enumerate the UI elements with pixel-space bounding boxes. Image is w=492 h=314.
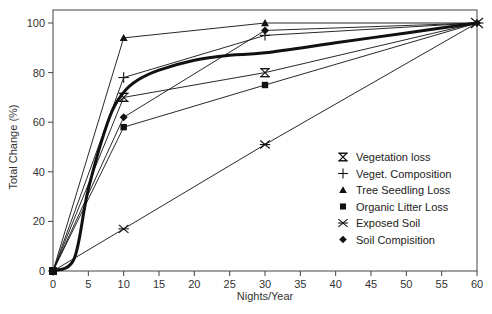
x-tick-label: 5	[85, 278, 91, 290]
plus-marker-icon	[338, 169, 348, 179]
legend-item: Tree Seedling Loss	[339, 184, 451, 196]
legend-label: Soil Compisition	[356, 234, 435, 246]
plot-frame	[53, 10, 477, 271]
square-marker-icon	[262, 82, 268, 88]
y-axis-label: Total Change (%)	[7, 105, 19, 190]
y-tick-label: 40	[33, 166, 45, 178]
y-tick-label: 60	[33, 116, 45, 128]
legend-label: Exposed Soil	[356, 217, 420, 229]
square-marker-icon	[340, 203, 346, 209]
y-tick-label: 20	[33, 215, 45, 227]
x-tick-label: 25	[224, 278, 236, 290]
x-axis-ticks: 051015202530354045505560	[50, 271, 483, 290]
x-tick-label: 60	[471, 278, 483, 290]
x-tick-label: 35	[294, 278, 306, 290]
x-marker-icon	[260, 141, 270, 149]
x-axis-label: Nights/Year	[237, 290, 294, 302]
legend: Vegetation lossVeget. CompositionTree Se…	[338, 151, 451, 246]
legend-item: Vegetation loss	[338, 151, 431, 163]
x-tick-label: 0	[50, 278, 56, 290]
x-tick-label: 20	[188, 278, 200, 290]
diamond-marker-icon	[339, 236, 347, 244]
x-tick-label: 45	[365, 278, 377, 290]
legend-item: Exposed Soil	[338, 217, 420, 229]
legend-item: Organic Litter Loss	[340, 201, 449, 213]
x-tick-label: 55	[436, 278, 448, 290]
plot-area-border	[53, 10, 477, 271]
diamond-marker-icon	[261, 26, 269, 34]
legend-label: Tree Seedling Loss	[356, 184, 451, 196]
legend-item: Soil Compisition	[339, 234, 435, 246]
plus-marker-icon	[118, 72, 128, 82]
x-tick-label: 30	[259, 278, 271, 290]
y-tick-label: 100	[27, 17, 45, 29]
legend-label: Organic Litter Loss	[356, 201, 449, 213]
legend-label: Veget. Composition	[356, 168, 451, 180]
x-tick-label: 40	[330, 278, 342, 290]
legend-label: Vegetation loss	[356, 151, 431, 163]
triangle-marker-icon	[339, 186, 347, 193]
x-tick-label: 10	[118, 278, 130, 290]
x-tick-label: 50	[400, 278, 412, 290]
origin-marker-icon	[49, 267, 57, 275]
line-chart: 051015202530354045505560 020406080100 Ni…	[0, 0, 492, 314]
x-marker-icon	[338, 219, 348, 227]
y-tick-label: 0	[39, 265, 45, 277]
square-marker-icon	[120, 124, 126, 130]
hourglass-marker-icon	[260, 69, 270, 77]
legend-item: Veget. Composition	[338, 168, 451, 180]
x-tick-label: 15	[153, 278, 165, 290]
diamond-marker-icon	[120, 113, 128, 121]
y-axis-ticks: 020406080100	[27, 17, 53, 277]
x-marker-icon	[118, 225, 128, 233]
hourglass-marker-icon	[338, 153, 347, 161]
y-tick-label: 80	[33, 67, 45, 79]
